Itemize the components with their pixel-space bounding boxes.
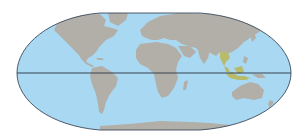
world-map (0, 0, 304, 139)
